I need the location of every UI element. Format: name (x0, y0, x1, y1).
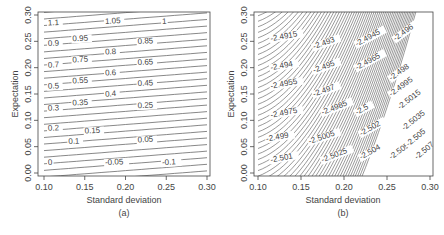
contour-label: 1.05 (104, 16, 125, 26)
svg-text:0.7: 0.7 (48, 60, 60, 70)
svg-text:0.45: 0.45 (137, 78, 154, 88)
svg-text:0.25: 0.25 (137, 100, 154, 110)
y-tick-label: 0.20 (239, 59, 249, 77)
contour-label: 1 (161, 17, 168, 26)
panel-label: (b) (338, 208, 349, 218)
svg-text:-0.1: -0.1 (162, 157, 177, 167)
contour-label: 0.5 (47, 81, 63, 91)
contour-label: -2.501 (269, 150, 300, 164)
x-tick-label: 0.10 (249, 182, 267, 192)
x-tick-label: 0.25 (378, 182, 396, 192)
svg-text:0.65: 0.65 (137, 57, 154, 67)
contour-label: 0.55 (71, 75, 92, 85)
y-tick-label: 0.25 (239, 33, 249, 51)
figure: 1.11.0510.950.90.850.80.750.70.650.60.55… (0, 0, 444, 235)
contour-label: 0.05 (136, 134, 157, 144)
contour-label: 0.65 (136, 57, 157, 67)
svg-text:0.9: 0.9 (48, 38, 60, 48)
y-axis-title: Expectation (226, 70, 236, 117)
x-tick-label: 0.15 (76, 182, 94, 192)
svg-text:-0.05: -0.05 (105, 157, 124, 167)
contour-label: 0.6 (104, 68, 120, 78)
svg-text:-2.4975: -2.4975 (270, 106, 299, 120)
contour-label: -0.05 (104, 157, 129, 167)
x-axis-title: Standard deviation (86, 195, 161, 205)
contour-label: -2.494 (269, 58, 300, 72)
contour-label: 0.3 (47, 103, 63, 113)
svg-text:-2.5005: -2.5005 (307, 128, 336, 145)
contour-label: 0.35 (71, 98, 92, 108)
contour-lines (44, 0, 207, 203)
y-tick-label: 0.05 (239, 138, 249, 156)
svg-text:1.1: 1.1 (48, 18, 60, 28)
panel-label: (a) (119, 208, 130, 218)
contour-label: 0.8 (104, 47, 120, 57)
y-tick-label: 0.30 (23, 6, 33, 24)
x-tick-label: 0.15 (292, 182, 310, 192)
contour-label: 0.7 (47, 60, 63, 70)
svg-text:0.1: 0.1 (68, 136, 80, 146)
y-tick-label: 0.10 (239, 112, 249, 130)
y-tick-label: 0.20 (23, 59, 33, 77)
contour-label: 0.85 (136, 36, 157, 46)
x-tick-label: 0.30 (421, 182, 439, 192)
y-tick-label: 0.25 (23, 33, 33, 51)
contour-label: 0.2 (47, 123, 63, 133)
svg-text:0.3: 0.3 (48, 103, 60, 113)
contour-label: 0.15 (83, 125, 104, 135)
svg-text:0.4: 0.4 (105, 89, 117, 99)
y-tick-label: 0.05 (23, 138, 33, 156)
y-tick-label: 0.00 (239, 164, 249, 182)
x-tick-label: 0.10 (35, 182, 53, 192)
contour-panel-a: 1.11.0510.950.90.850.80.750.70.650.60.55… (10, 0, 216, 218)
contour-panel-b: -2.4915-2.493-2.4945-2.496-2.494-2.495-2… (226, 0, 440, 235)
y-tick-label: 0.15 (239, 85, 249, 103)
x-tick-label: 0.25 (157, 182, 175, 192)
y-tick-label: 0.10 (23, 112, 33, 130)
svg-text:-2.501: -2.501 (270, 151, 295, 164)
y-tick-label: 0.30 (239, 6, 249, 24)
contour-label: 0 (47, 158, 54, 167)
svg-text:-2.4915: -2.4915 (270, 29, 299, 43)
x-tick-label: 0.30 (198, 182, 216, 192)
y-axis-title: Expectation (10, 70, 20, 117)
contour-label: 0.1 (67, 136, 83, 146)
svg-text:0.35: 0.35 (72, 98, 89, 108)
svg-text:-2.493: -2.493 (312, 35, 337, 51)
svg-text:0.2: 0.2 (48, 123, 60, 133)
y-tick-label: 0.00 (23, 164, 33, 182)
x-axis-title: Standard deviation (305, 195, 380, 205)
svg-text:1.05: 1.05 (105, 16, 122, 26)
contour-label: 0.95 (71, 33, 92, 43)
contour-label: 1.1 (47, 18, 63, 28)
contour-label: 0.45 (136, 78, 157, 88)
svg-text:0.05: 0.05 (137, 135, 154, 145)
svg-text:0.75: 0.75 (72, 55, 89, 65)
contour-label: 0.9 (47, 38, 63, 48)
svg-text:0.85: 0.85 (137, 36, 154, 46)
svg-text:0.15: 0.15 (84, 126, 101, 136)
contour-label: -2.502 (357, 116, 387, 138)
svg-text:0.6: 0.6 (105, 68, 117, 78)
y-tick-label: 0.15 (23, 85, 33, 103)
svg-text:0.5: 0.5 (48, 81, 60, 91)
contour-label: 0.75 (71, 54, 92, 64)
svg-text:0.55: 0.55 (72, 76, 89, 86)
contour-label: 0.4 (104, 89, 120, 99)
svg-text:0.95: 0.95 (72, 33, 89, 43)
svg-text:0.8: 0.8 (105, 47, 117, 57)
contour-label: 0.25 (136, 100, 157, 110)
contour-label: -0.1 (161, 157, 182, 167)
contour-label: -2.504 (357, 140, 387, 162)
x-tick-label: 0.20 (335, 182, 353, 192)
x-tick-label: 0.20 (117, 182, 135, 192)
